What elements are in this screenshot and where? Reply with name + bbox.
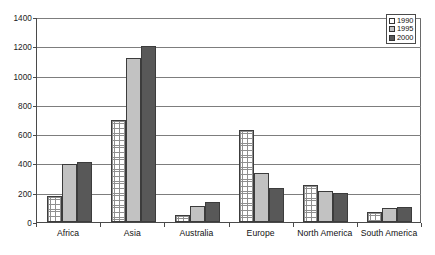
legend-swatch-icon-2000 bbox=[389, 35, 395, 41]
bar-africa-1990 bbox=[47, 196, 62, 222]
bar-europe-1990 bbox=[239, 130, 254, 222]
bar-asia-2000 bbox=[141, 46, 156, 222]
y-tick-label: 400 bbox=[18, 160, 32, 169]
legend-item-1995: 1995 bbox=[389, 25, 413, 32]
bar-south-america-1995 bbox=[382, 208, 397, 222]
bar-group bbox=[165, 18, 229, 222]
bar-australia-2000 bbox=[205, 202, 220, 222]
y-tick-label: 200 bbox=[18, 189, 32, 198]
bar-group bbox=[293, 18, 357, 222]
legend-label-1990: 1990 bbox=[397, 17, 413, 24]
legend-swatch-icon-1995 bbox=[389, 26, 395, 32]
legend-label-2000: 2000 bbox=[397, 34, 413, 41]
x-tick-mark bbox=[100, 223, 101, 227]
bar-north-america-1990 bbox=[303, 185, 318, 222]
bar-group bbox=[101, 18, 165, 222]
x-tick-mark bbox=[293, 223, 294, 227]
x-tick-label-north-america: North America bbox=[293, 228, 357, 248]
bar-south-america-2000 bbox=[397, 207, 412, 222]
bar-group bbox=[357, 18, 421, 222]
legend-swatch-icon-1990 bbox=[389, 18, 395, 24]
chart-legend: 199019952000 bbox=[386, 14, 416, 44]
bar-chart: 0200400600800100012001400 AfricaAsiaAust… bbox=[0, 0, 435, 255]
x-tick-label-africa: Africa bbox=[36, 228, 100, 248]
bar-groups bbox=[37, 18, 421, 222]
bar-europe-2000 bbox=[269, 188, 284, 222]
bar-australia-1995 bbox=[190, 206, 205, 222]
legend-label-1995: 1995 bbox=[397, 25, 413, 32]
x-tick-label-australia: Australia bbox=[164, 228, 228, 248]
y-tick-label: 1000 bbox=[13, 72, 32, 81]
bar-europe-1995 bbox=[254, 173, 269, 222]
y-tick-label: 1400 bbox=[13, 14, 32, 23]
x-axis-labels: AfricaAsiaAustraliaEuropeNorth AmericaSo… bbox=[36, 228, 421, 248]
bar-north-america-2000 bbox=[333, 193, 348, 222]
x-tick-label-south-america: South America bbox=[357, 228, 421, 248]
x-tick-mark bbox=[36, 223, 37, 227]
bar-africa-1995 bbox=[62, 164, 77, 222]
bar-group bbox=[229, 18, 293, 222]
bar-group bbox=[37, 18, 101, 222]
bar-asia-1990 bbox=[111, 120, 126, 223]
bar-australia-1990 bbox=[175, 215, 190, 222]
x-tick-mark bbox=[357, 223, 358, 227]
bar-africa-2000 bbox=[77, 162, 92, 222]
x-tick-label-asia: Asia bbox=[100, 228, 164, 248]
x-tick-mark bbox=[164, 223, 165, 227]
legend-item-2000: 2000 bbox=[389, 34, 413, 41]
x-tick-label-europe: Europe bbox=[229, 228, 293, 248]
x-tick-mark bbox=[421, 223, 422, 227]
y-tick-label: 0 bbox=[27, 219, 32, 228]
x-tick-mark bbox=[229, 223, 230, 227]
y-tick-label: 1200 bbox=[13, 43, 32, 52]
plot-area bbox=[36, 18, 421, 223]
y-tick-label: 600 bbox=[18, 131, 32, 140]
bar-south-america-1990 bbox=[367, 212, 382, 222]
bar-north-america-1995 bbox=[318, 191, 333, 222]
y-axis-labels: 0200400600800100012001400 bbox=[0, 18, 32, 223]
bar-asia-1995 bbox=[126, 58, 141, 222]
legend-item-1990: 1990 bbox=[389, 17, 413, 24]
y-tick-label: 800 bbox=[18, 101, 32, 110]
